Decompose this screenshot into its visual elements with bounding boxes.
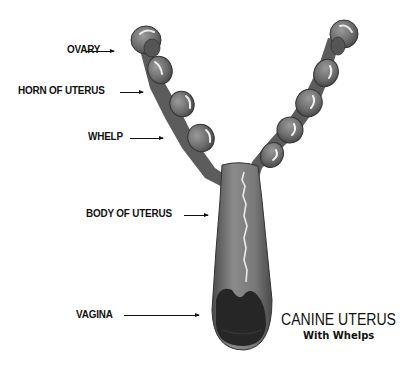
arrow-vagina (124, 315, 199, 316)
figure-title: CANINE UTERUS (281, 311, 396, 329)
right-uterine-horn (245, 20, 358, 190)
label-horn-of-uterus: HORN OF UTERUS (18, 84, 105, 96)
figure-subtitle: With Whelps (303, 330, 374, 341)
arrow-ovary (86, 51, 114, 52)
arrow-horn-of-uterus (120, 92, 143, 93)
uterine-body (212, 163, 272, 350)
label-whelp: WHELP (88, 130, 123, 142)
label-body-of-uterus: BODY OF UTERUS (86, 207, 172, 219)
label-ovary: OVARY (67, 43, 100, 55)
arrow-body-of-uterus (184, 215, 208, 216)
label-vagina: VAGINA (76, 308, 113, 320)
arrow-whelp (130, 138, 163, 139)
